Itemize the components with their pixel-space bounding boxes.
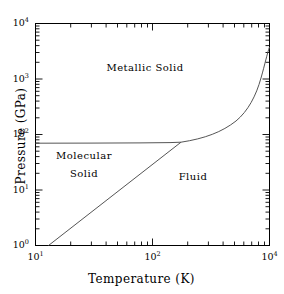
xtick-label-1: 101 xyxy=(21,251,51,262)
yaxis-ticks xyxy=(36,24,270,246)
ytick-label-1e0: 100 xyxy=(3,239,29,250)
xtick-label-3: 104 xyxy=(255,251,284,262)
region-label-molecular-solid-line1: Molecular xyxy=(41,150,127,161)
xaxis-ticks xyxy=(36,24,270,246)
xaxis-title: Temperature (K) xyxy=(0,272,283,286)
xtick-label-2: 102 xyxy=(138,251,168,262)
ytick-label-1e4: 104 xyxy=(3,17,29,28)
region-label-metallic-solid: Metallic Solid xyxy=(90,62,200,73)
yaxis-title: Pressure (GPa) xyxy=(14,56,28,216)
curve-molecular-metallic-boundary xyxy=(36,142,182,143)
region-label-molecular-solid-line2: Solid xyxy=(41,168,127,179)
plot-frame xyxy=(36,24,270,246)
phase-diagram-figure: 101 102 104 104 103 102 101 100 Metallic… xyxy=(0,0,283,294)
region-label-fluid: Fluid xyxy=(158,171,228,182)
